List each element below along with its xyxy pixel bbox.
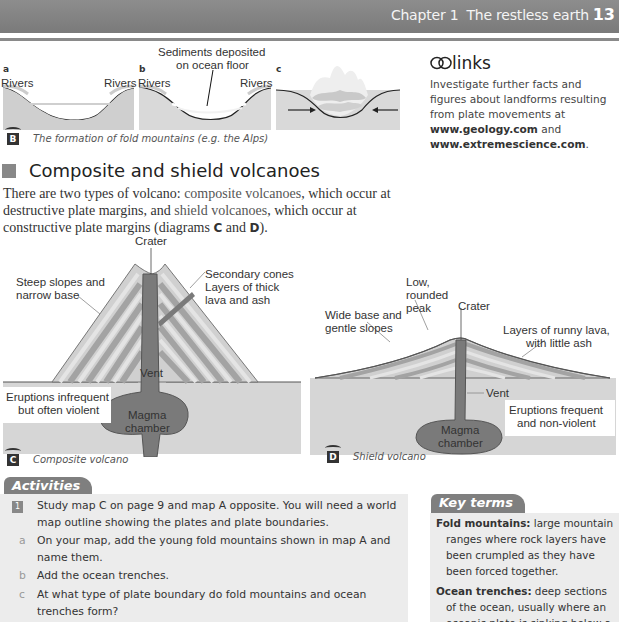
eruptions-label-line1: Eruptions frequent bbox=[509, 404, 603, 417]
links-text-end: . bbox=[585, 138, 588, 150]
activity-1-line2: map outline showing the plates and plate… bbox=[37, 514, 396, 531]
activity-1a-line1: On your map, add the young fold mountain… bbox=[37, 532, 390, 549]
activity-number: 1 bbox=[12, 501, 23, 513]
page-number: 13 bbox=[593, 5, 615, 24]
subitem-letter-b: b bbox=[19, 569, 26, 582]
activities-box: 1 Study map C on page 9 and map A opposi… bbox=[0, 494, 408, 622]
magma-chamber-label-line1: Magma bbox=[128, 409, 166, 422]
eruptions-label-line1: Eruptions infrequent bbox=[6, 391, 109, 404]
peak-label-line2: rounded bbox=[406, 289, 448, 302]
intro-paragraph: There are two types of volcano: composit… bbox=[3, 185, 405, 237]
figure-b: a b c Rivers Rivers Rivers Rivers Sedime… bbox=[0, 50, 400, 165]
links-text-intro: Investigate further facts and figures ab… bbox=[430, 78, 606, 120]
links-panel: links Investigate further facts and figu… bbox=[430, 52, 619, 152]
runny-lava-label-line2: with little ash bbox=[526, 337, 592, 350]
vent-label: Vent bbox=[486, 387, 509, 400]
magma-chamber-label-line2: chamber bbox=[125, 422, 170, 435]
section-heading: Composite and shield volcanoes bbox=[29, 160, 320, 181]
link-geology[interactable]: www.geology.com bbox=[430, 123, 538, 135]
eruptions-label-line2: and non-violent bbox=[517, 417, 596, 430]
activity-1c-line1: At what type of plate boundary do fold m… bbox=[37, 586, 366, 603]
key-term-fold-mountains: Fold mountains: large mountain ranges wh… bbox=[436, 515, 615, 579]
magma-chamber-label-line1: Magma bbox=[441, 424, 479, 437]
section-heading-row: Composite and shield volcanoes bbox=[2, 160, 320, 181]
panel-letter-b: b bbox=[139, 64, 145, 74]
chapter-name: The restless earth bbox=[466, 7, 589, 23]
figure-d: Low, rounded peak Crater Wide base and g… bbox=[310, 270, 619, 480]
activity-1c-text: At what type of plate boundary do fold m… bbox=[37, 586, 366, 620]
section-marker bbox=[2, 164, 16, 178]
peak-label-line1: Low, bbox=[406, 276, 430, 289]
figure-c-badge: C bbox=[7, 454, 19, 466]
links-description: Investigate further facts and figures ab… bbox=[430, 77, 619, 152]
activity-1-text: Study map C on page 9 and map A opposite… bbox=[37, 497, 396, 531]
paragraph-text: There are two types of volcano: bbox=[3, 186, 184, 201]
subitem-letter-c: c bbox=[19, 588, 25, 601]
runny-lava-label-line1: Layers of runny lava, bbox=[503, 324, 610, 337]
figure-c-caption: Composite volcano bbox=[33, 454, 128, 465]
key-terms-tab: Key terms bbox=[431, 494, 525, 513]
links-text-and: and bbox=[538, 123, 561, 135]
wide-base-label-line2: gentle slopes bbox=[325, 322, 393, 335]
crater-label: Crater bbox=[135, 235, 167, 248]
links-chain-icon bbox=[430, 56, 452, 70]
layers-label-line1: Layers of thick bbox=[205, 281, 279, 294]
key-term-ocean-trenches: Ocean trenches: deep sections of the oce… bbox=[436, 583, 615, 622]
rivers-label: Rivers bbox=[1, 77, 34, 90]
activity-1a-line2: name them. bbox=[37, 549, 390, 566]
term-shield-volcanoes: shield volcanoes bbox=[174, 203, 267, 218]
activity-1b-text: Add the ocean trenches. bbox=[37, 567, 169, 584]
wide-base-label-line1: Wide base and bbox=[325, 309, 402, 322]
key-term-name: Ocean trenches: bbox=[436, 585, 532, 597]
secondary-cones-label: Secondary cones bbox=[205, 268, 294, 281]
slopes-label-line2: narrow base bbox=[16, 289, 79, 302]
magma-chamber-label-line2: chamber bbox=[438, 437, 483, 450]
header-divider bbox=[0, 38, 619, 41]
chapter-title: Chapter 1The restless earth bbox=[391, 7, 589, 23]
crater-label: Crater bbox=[458, 300, 490, 313]
sediments-label-line2: on ocean floor bbox=[176, 59, 249, 72]
activity-1a-text: On your map, add the young fold mountain… bbox=[37, 532, 390, 566]
figure-b-badge: B bbox=[7, 133, 19, 145]
figure-b-caption: The formation of fold mountains (e.g. th… bbox=[33, 133, 268, 144]
subitem-letter-a: a bbox=[19, 534, 26, 547]
term-composite-volcanoes: composite volcanoes bbox=[184, 186, 301, 201]
peak-label-line3: peak bbox=[406, 302, 431, 315]
header-bar: Chapter 1The restless earth 13 bbox=[0, 0, 619, 33]
layers-label-line2: lava and ash bbox=[205, 294, 270, 307]
figure-d-badge: D bbox=[327, 451, 339, 463]
vent-label: Vent bbox=[140, 367, 163, 380]
figure-c: Crater Steep slopes and narrow base Seco… bbox=[0, 232, 310, 482]
key-term-name: Fold mountains: bbox=[436, 517, 530, 529]
eruptions-label-line2: but often violent bbox=[18, 404, 99, 417]
activity-1c-line2: trenches form? bbox=[37, 603, 366, 620]
rivers-label: Rivers bbox=[104, 77, 137, 90]
sediments-label-line1: Sediments deposited bbox=[158, 46, 265, 59]
chapter-number: Chapter 1 bbox=[391, 7, 459, 23]
figure-d-caption: Shield volcano bbox=[353, 451, 426, 462]
links-title: links bbox=[452, 53, 491, 73]
slopes-label-line1: Steep slopes and bbox=[16, 276, 105, 289]
panel-c bbox=[276, 66, 400, 130]
panel-letter-c: c bbox=[276, 64, 281, 74]
rivers-label: Rivers bbox=[240, 77, 273, 90]
panel-letter-a: a bbox=[3, 64, 9, 74]
key-terms-box: Fold mountains: large mountain ranges wh… bbox=[430, 513, 619, 622]
rivers-label: Rivers bbox=[138, 77, 171, 90]
activity-1-line1: Study map C on page 9 and map A opposite… bbox=[37, 497, 396, 514]
link-extremescience[interactable]: www.extremescience.com bbox=[430, 138, 585, 150]
